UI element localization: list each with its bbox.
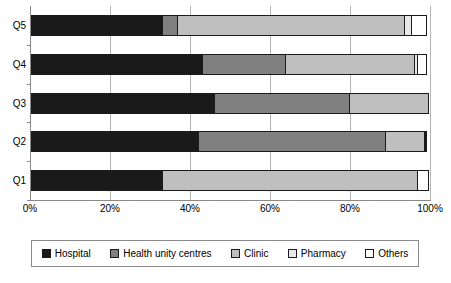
- bar-segment-q1-clinic: [162, 170, 418, 191]
- legend-item-health-unity[interactable]: Health unity centres: [110, 248, 211, 259]
- y-axis-category-label-q3: Q3: [0, 99, 26, 109]
- bar-segment-q2-health-unity: [198, 131, 386, 152]
- legend-item-pharmacy[interactable]: Pharmacy: [288, 248, 346, 259]
- legend-swatch-pharmacy-icon: [288, 249, 297, 258]
- bar-segment-q1-others: [417, 170, 429, 191]
- bar-segment-q1-hospital: [31, 170, 163, 191]
- x-axis-tick-label: 60%: [260, 203, 280, 214]
- y-axis-tickmark: [27, 84, 31, 85]
- x-gridline: [430, 6, 431, 200]
- y-axis-category-label-q4: Q4: [0, 60, 26, 70]
- legend-swatch-others-icon: [365, 249, 374, 258]
- x-axis-tick-label: 80%: [340, 203, 360, 214]
- y-axis-category-label-q5: Q5: [0, 21, 26, 31]
- bar-segment-q5-hospital: [31, 15, 163, 36]
- legend-item-clinic[interactable]: Clinic: [231, 248, 268, 259]
- bar-segment-q4-hospital: [31, 54, 203, 75]
- y-axis-category-label-q2: Q2: [0, 137, 26, 147]
- legend-label: Health unity centres: [123, 248, 211, 259]
- bar-q5: [31, 15, 427, 36]
- y-axis-tickmark: [27, 122, 31, 123]
- legend-label: Pharmacy: [301, 248, 346, 259]
- bar-q2: [31, 131, 427, 152]
- x-axis-tick-label: 0%: [23, 203, 37, 214]
- y-axis-tickmark: [27, 45, 31, 46]
- legend-label: Others: [378, 248, 408, 259]
- x-axis-tick-label: 100%: [417, 203, 443, 214]
- legend-label: Hospital: [55, 248, 91, 259]
- legend-item-hospital[interactable]: Hospital: [42, 248, 91, 259]
- legend-label: Clinic: [244, 248, 268, 259]
- legend-swatch-hospital-icon: [42, 249, 51, 258]
- legend-item-others[interactable]: Others: [365, 248, 408, 259]
- bar-segment-q5-others: [411, 15, 427, 36]
- bar-segment-q4-health-unity: [202, 54, 286, 75]
- x-axis-tick-label: 40%: [180, 203, 200, 214]
- bar-segment-q2-others: [425, 131, 427, 152]
- bar-segment-q3-hospital: [31, 93, 215, 114]
- bar-q3: [31, 93, 428, 114]
- y-axis-tickmark: [27, 161, 31, 162]
- bar-segment-q2-clinic: [385, 131, 425, 152]
- x-axis-tick-label: 20%: [100, 203, 120, 214]
- legend-swatch-clinic-icon: [231, 249, 240, 258]
- x-axis-tick-labels: 0%20%40%60%80%100%: [0, 203, 451, 217]
- y-axis-tickmark: [27, 200, 31, 201]
- bar-segment-q2-hospital: [31, 131, 199, 152]
- y-axis-category-label-q1: Q1: [0, 176, 26, 186]
- bar-segment-q3-health-unity: [214, 93, 350, 114]
- bar-segment-q3-clinic: [349, 93, 429, 114]
- bar-q4: [31, 54, 427, 75]
- bar-segment-q5-health-unity: [162, 15, 178, 36]
- bar-segment-q5-clinic: [177, 15, 405, 36]
- bar-segment-q4-others: [417, 54, 427, 75]
- chart-container: 0%20%40%60%80%100% HospitalHealth unity …: [0, 0, 451, 283]
- bar-q1: [31, 170, 429, 191]
- bar-segment-q4-clinic: [285, 54, 415, 75]
- plot-area: [30, 6, 431, 201]
- legend-swatch-health-unity-icon: [110, 249, 119, 258]
- chart-legend: HospitalHealth unity centresClinicPharma…: [31, 240, 419, 267]
